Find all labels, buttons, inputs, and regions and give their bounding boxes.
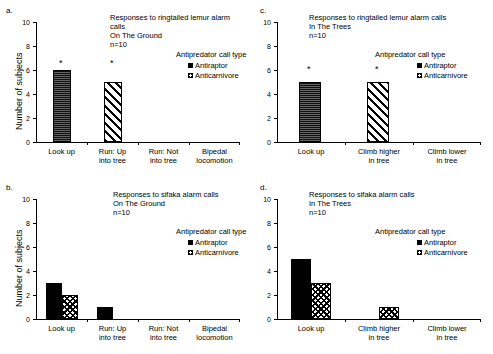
panel-a-star-lookup: *: [59, 60, 63, 66]
panel-b-ytick-0: 0: [16, 316, 30, 323]
panel-d-ytick-4: 4: [257, 268, 271, 275]
panel-c-plot-area: 0 2 4 6 8 10 * * Look up Climb higher in…: [277, 22, 481, 142]
panel-c-star-lookup: *: [307, 66, 311, 72]
panel-c-xtick-2: Climb lower in tree: [413, 147, 481, 165]
panel-b-y-axis: [36, 199, 37, 319]
panel-a: a. Number of subjects Responses to ringt…: [0, 0, 246, 177]
panel-c-y-axis: [277, 22, 278, 142]
panel-d-ytick-8: 8: [257, 220, 271, 227]
panel-a-ytick-8: 8: [16, 43, 30, 50]
panel-c-ytick-0: 0: [257, 139, 271, 146]
panel-a-xtick-0: Look up: [36, 147, 87, 156]
panel-b-bar-lookup-antiraptor: [46, 283, 62, 319]
panel-c-bar-lookup-antiraptor: [299, 82, 321, 142]
panel-b-ytick-4: 4: [16, 268, 30, 275]
panel-c-xtick-0: Look up: [277, 147, 345, 156]
panel-a-xtick-1: Run: Up into tree: [87, 147, 138, 165]
panel-d-bar-climbhigher-anticarnivore: [379, 307, 399, 319]
panel-d-xtick-2: Climb lower in tree: [413, 324, 481, 342]
panel-b-plot-area: 0 2 4 6 8 10 Look up Run: Up into tree R…: [36, 199, 240, 319]
panel-b-letter: b.: [6, 183, 13, 192]
panel-c: c. Responses to ringtailed lemur alarm c…: [247, 0, 493, 177]
panel-a-ytick-10: 10: [16, 19, 30, 26]
panel-a-ytick-6: 6: [16, 67, 30, 74]
panel-d-bar-lookup-antiraptor: [291, 259, 311, 319]
panel-b-xtick-1: Run: Up into tree: [87, 324, 138, 342]
panel-a-letter: a.: [6, 6, 13, 15]
panel-a-xtick-2: Run: Not into tree: [138, 147, 189, 165]
panel-c-xtick-1: Climb higher in tree: [345, 147, 413, 165]
panel-b-ytick-6: 6: [16, 244, 30, 251]
panel-b-xtick-2: Run: Not into tree: [138, 324, 189, 342]
panel-d: d. Responses to sifaka alarm calls In Th…: [247, 177, 493, 354]
panel-a-ytick-0: 0: [16, 139, 30, 146]
panel-b-bar-lookup-anticarnivore: [62, 295, 78, 319]
panel-b-ytick-8: 8: [16, 220, 30, 227]
panel-c-letter: c.: [260, 6, 266, 15]
panel-a-bar-runup-anticarnivore: [104, 82, 122, 142]
panel-a-star-runup: *: [110, 60, 114, 66]
panel-b-ytick-2: 2: [16, 292, 30, 299]
panel-c-star-climbhigher: *: [375, 66, 379, 72]
panel-a-y-axis: [36, 22, 37, 142]
panel-a-plot-area: 0 2 4 6 8 10 * * Look up Run: Up into tr…: [36, 22, 240, 142]
panel-d-xtick-0: Look up: [277, 324, 345, 333]
panel-d-plot-area: 0 2 4 6 8 10 Look up Climb higher in tre…: [277, 199, 481, 319]
panel-c-ytick-10: 10: [257, 19, 271, 26]
panel-a-ytick-4: 4: [16, 91, 30, 98]
panel-d-ytick-0: 0: [257, 316, 271, 323]
figure-panel-grid: a. Number of subjects Responses to ringt…: [0, 0, 493, 354]
panel-b: b. Number of subjects Responses to sifak…: [0, 177, 246, 354]
panel-c-ytick-8: 8: [257, 43, 271, 50]
panel-d-x-axis: [277, 319, 481, 320]
panel-c-ytick-6: 6: [257, 67, 271, 74]
panel-d-bar-lookup-anticarnivore: [311, 283, 331, 319]
panel-b-xtick-3: Bipedal locomotion: [189, 324, 240, 342]
panel-b-bar-runup-antiraptor: [97, 307, 113, 319]
panel-c-ytick-4: 4: [257, 91, 271, 98]
panel-d-ytick-10: 10: [257, 196, 271, 203]
panel-d-ytick-6: 6: [257, 244, 271, 251]
panel-c-bar-climbhigher-anticarnivore: [367, 82, 389, 142]
panel-d-y-axis: [277, 199, 278, 319]
panel-a-ytick-2: 2: [16, 115, 30, 122]
panel-b-ytick-10: 10: [16, 196, 30, 203]
panel-c-ytick-2: 2: [257, 115, 271, 122]
panel-b-xtick-0: Look up: [36, 324, 87, 333]
panel-a-bar-lookup-antiraptor: [53, 70, 71, 142]
panel-a-xtick-3: Bipedal locomotion: [189, 147, 240, 165]
panel-c-x-axis: [277, 142, 481, 143]
panel-d-xtick-1: Climb higher in tree: [345, 324, 413, 342]
panel-d-letter: d.: [260, 183, 267, 192]
panel-d-ytick-2: 2: [257, 292, 271, 299]
